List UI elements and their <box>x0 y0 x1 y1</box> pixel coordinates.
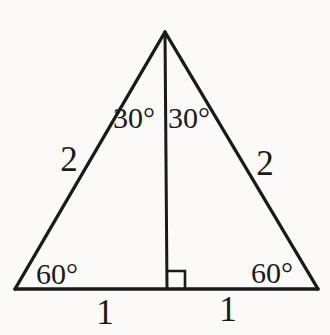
base-angle-right-label: 60° <box>251 258 293 288</box>
base-segment-left-label: 1 <box>96 295 114 330</box>
apex-angle-left-label: 30° <box>113 103 155 133</box>
triangle-left-side-line <box>15 32 165 289</box>
base-segment-right-label: 1 <box>219 292 237 327</box>
right-side-length-label: 2 <box>256 146 274 181</box>
right-angle-mark <box>167 271 185 289</box>
left-side-length-label: 2 <box>60 142 78 177</box>
triangle-right-side-line <box>165 32 318 289</box>
base-angle-left-label: 60° <box>36 259 78 289</box>
altitude-line <box>165 32 167 289</box>
apex-angle-right-label: 30° <box>168 103 210 133</box>
triangle-diagram: 30° 30° 2 2 60° 60° 1 1 <box>0 0 330 335</box>
